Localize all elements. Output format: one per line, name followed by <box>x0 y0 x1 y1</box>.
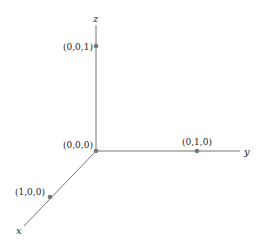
coordinate-diagram: z y x (0,0,0) (0,0,1) (0,1,0) (1,0,0) <box>0 0 263 247</box>
point-100-label: (1,0,0) <box>15 187 45 197</box>
z-axis-label: z <box>92 13 99 24</box>
point-001 <box>94 44 99 49</box>
point-010 <box>195 149 200 154</box>
point-001-label: (0,0,1) <box>63 42 93 52</box>
x-axis-label: x <box>16 225 22 236</box>
point-origin-label: (0,0,0) <box>63 140 93 150</box>
point-010-label: (0,1,0) <box>182 137 212 147</box>
y-axis-label: y <box>243 146 250 157</box>
point-100 <box>48 195 53 200</box>
point-origin <box>94 149 99 154</box>
